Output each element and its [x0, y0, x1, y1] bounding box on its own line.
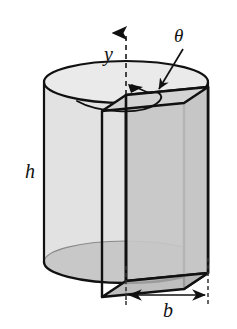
plate-front-face	[126, 87, 208, 281]
width-b-label: b	[163, 300, 173, 320]
cylinder-diagram: y θ h b	[0, 0, 237, 329]
height-h-label: h	[25, 161, 35, 181]
angle-theta-label: θ	[174, 26, 183, 45]
figure-canvas	[0, 0, 237, 329]
axis-y-label: y	[104, 44, 113, 64]
